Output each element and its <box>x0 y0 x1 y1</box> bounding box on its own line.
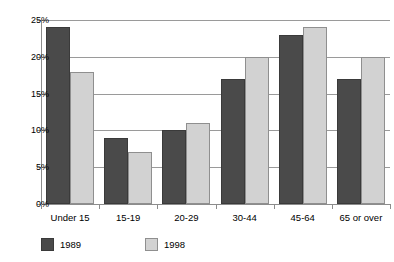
bar-group <box>99 20 157 204</box>
bar-1998-15-19 <box>128 152 152 204</box>
x-tick-mark <box>390 204 391 209</box>
bar-1989-20-29 <box>162 130 186 204</box>
x-tick-mark <box>332 204 333 209</box>
bar-1989-30-44 <box>221 79 245 204</box>
y-tick-label: 5% <box>9 163 49 172</box>
bar-1989-under-15 <box>46 27 70 204</box>
category-label-65-or-over: 65 or over <box>332 212 390 223</box>
legend-swatch-1998 <box>145 238 158 251</box>
legend-label: 1989 <box>60 239 81 250</box>
bar-group <box>41 20 99 204</box>
x-tick-mark <box>216 204 217 209</box>
bar-chart: 0%5%10%15%20%25% Under 1515-1920-2930-44… <box>0 0 394 262</box>
x-tick-mark <box>41 204 42 209</box>
y-tick-label: 25% <box>9 16 49 25</box>
category-label-45-64: 45-64 <box>274 212 332 223</box>
bar-1998-65-or-over <box>361 57 385 204</box>
category-label-30-44: 30-44 <box>216 212 274 223</box>
legend-swatch-1989 <box>41 238 54 251</box>
y-tick-label: 0% <box>9 200 49 209</box>
bar-1998-under-15 <box>70 72 94 204</box>
bar-1989-45-64 <box>279 35 303 204</box>
bar-group <box>157 20 215 204</box>
y-tick-label: 15% <box>9 90 49 99</box>
category-label-15-19: 15-19 <box>99 212 157 223</box>
bar-groups <box>41 20 390 204</box>
category-label-under-15: Under 15 <box>41 212 99 223</box>
bar-1998-45-64 <box>303 27 327 204</box>
legend-item-1998[interactable]: 1998 <box>145 238 185 251</box>
y-tick-label: 20% <box>9 53 49 62</box>
bar-group <box>216 20 274 204</box>
plot-area <box>41 20 390 204</box>
bar-1989-65-or-over <box>337 79 361 204</box>
category-label-20-29: 20-29 <box>157 212 215 223</box>
y-axis-line <box>41 20 42 205</box>
x-tick-mark <box>157 204 158 209</box>
x-tick-mark <box>99 204 100 209</box>
legend-item-1989[interactable]: 1989 <box>41 238 81 251</box>
bar-group <box>332 20 390 204</box>
bar-1998-30-44 <box>245 57 269 204</box>
bar-1989-15-19 <box>104 138 128 204</box>
cropped-title-residue <box>0 0 394 7</box>
legend-label: 1998 <box>164 239 185 250</box>
bar-1998-20-29 <box>186 123 210 204</box>
bar-group <box>274 20 332 204</box>
y-tick-label: 10% <box>9 126 49 135</box>
x-tick-mark <box>274 204 275 209</box>
